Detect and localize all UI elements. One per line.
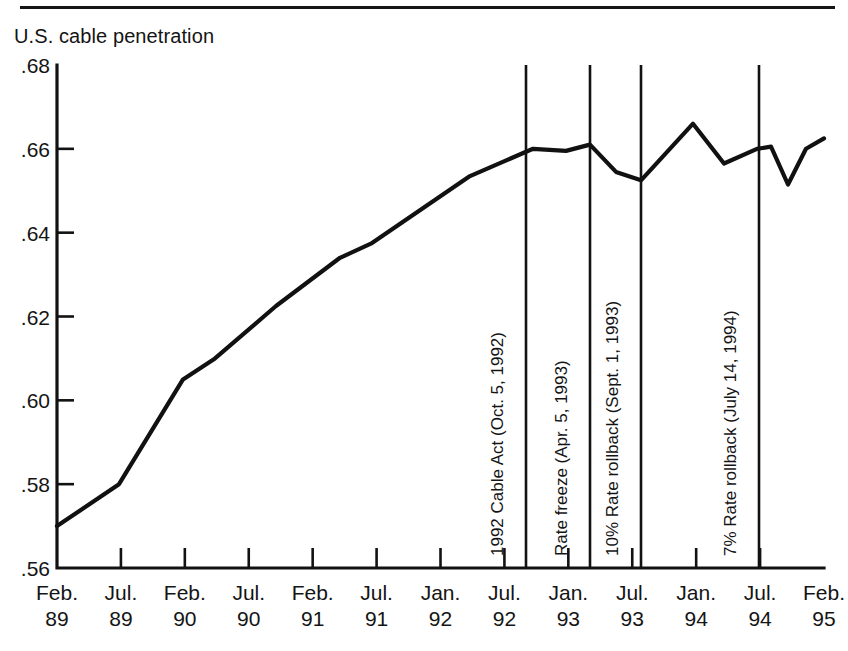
y-tick-label: .68: [2, 55, 50, 76]
event-annotation-label: Rate freeze (Apr. 5, 1993): [553, 360, 570, 556]
y-tick-label: .56: [2, 558, 50, 579]
y-tick-marks: [57, 149, 74, 484]
y-tick-label: .64: [2, 223, 50, 244]
event-annotation-label: 7% Rate rollback (July 14, 1994): [722, 310, 739, 556]
x-tick-label: Feb.95: [781, 580, 848, 632]
y-tick-label: .66: [2, 139, 50, 160]
penetration-series-line: [57, 124, 824, 526]
x-tick-year: 95: [781, 606, 848, 632]
x-tick-month: Feb.: [781, 580, 848, 606]
axis-frame: [57, 65, 824, 568]
event-annotation-label: 1992 Cable Act (Oct. 5, 1992): [489, 332, 506, 556]
x-tick-marks: [121, 548, 760, 568]
y-tick-label: .58: [2, 474, 50, 495]
y-tick-label: .60: [2, 390, 50, 411]
y-tick-label: .62: [2, 307, 50, 328]
event-annotation-label: 10% Rate rollback (Sept. 1, 1993): [604, 301, 621, 556]
